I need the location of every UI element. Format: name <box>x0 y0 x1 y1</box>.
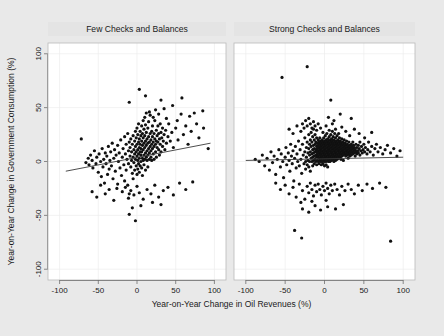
data-point <box>127 197 130 200</box>
data-point <box>161 127 164 130</box>
data-point <box>392 147 395 150</box>
data-point <box>121 156 124 159</box>
data-point <box>105 155 108 158</box>
data-point <box>323 189 326 192</box>
data-point <box>326 187 329 190</box>
data-point <box>165 142 168 145</box>
data-point <box>280 152 283 155</box>
data-point <box>300 172 303 175</box>
data-point <box>172 193 175 196</box>
data-point <box>313 204 316 207</box>
data-point <box>381 152 384 155</box>
data-point <box>114 170 117 173</box>
data-point <box>142 119 145 122</box>
data-point <box>140 166 143 169</box>
data-point <box>347 183 350 186</box>
data-point <box>158 153 161 156</box>
data-point <box>126 132 129 135</box>
data-point <box>97 152 100 155</box>
data-point <box>389 240 392 243</box>
data-point <box>280 76 283 79</box>
data-point <box>161 145 164 148</box>
data-point <box>159 203 162 206</box>
data-point <box>131 206 134 209</box>
data-point <box>284 184 287 187</box>
data-point <box>370 131 373 134</box>
data-point <box>108 159 111 162</box>
data-point <box>125 143 128 146</box>
data-point <box>297 139 300 142</box>
data-point <box>358 141 361 144</box>
data-point <box>122 163 125 166</box>
data-point <box>115 187 118 190</box>
data-point <box>87 163 90 166</box>
data-point <box>334 128 337 131</box>
data-point <box>289 143 292 146</box>
panel-1: Few Checks and Balances-100-50050100 <box>48 22 226 295</box>
data-point <box>121 190 124 193</box>
data-point <box>162 133 165 136</box>
data-point <box>298 183 301 186</box>
data-point <box>163 148 166 151</box>
data-point <box>274 181 277 184</box>
data-point <box>110 164 113 167</box>
data-point <box>269 150 272 153</box>
data-point <box>366 148 369 151</box>
data-point <box>121 147 124 150</box>
data-point <box>128 141 131 144</box>
data-point <box>310 127 313 130</box>
data-point <box>145 131 148 134</box>
data-point <box>146 165 149 168</box>
data-point <box>139 204 142 207</box>
data-point <box>165 117 168 120</box>
data-point <box>296 160 299 163</box>
data-point <box>305 156 308 159</box>
data-point <box>152 132 155 135</box>
data-point <box>129 189 132 192</box>
data-point <box>342 203 345 206</box>
data-point <box>333 132 336 135</box>
data-point <box>138 88 141 91</box>
x-tick-label: 0 <box>322 286 327 295</box>
data-point <box>339 113 342 116</box>
data-point <box>284 146 287 149</box>
data-point <box>113 148 116 151</box>
data-point <box>111 177 114 180</box>
data-point <box>307 191 310 194</box>
data-point <box>263 164 266 167</box>
data-point <box>178 181 181 184</box>
data-point <box>148 110 151 113</box>
data-point <box>137 122 140 125</box>
data-point <box>184 124 187 127</box>
x-tick-label: -50 <box>279 286 291 295</box>
data-point <box>293 229 296 232</box>
data-point <box>140 124 143 127</box>
data-point <box>287 151 290 154</box>
data-point <box>282 176 285 179</box>
data-point <box>154 108 157 111</box>
data-point <box>144 94 147 97</box>
data-point <box>277 148 280 151</box>
data-point <box>145 188 148 191</box>
data-point <box>132 161 135 164</box>
data-point <box>153 184 156 187</box>
data-point <box>157 113 160 116</box>
data-point <box>159 131 162 134</box>
data-point <box>335 188 338 191</box>
data-point <box>132 193 135 196</box>
data-point <box>384 186 387 189</box>
data-point <box>87 157 90 160</box>
data-point <box>358 153 361 156</box>
data-point <box>329 184 332 187</box>
data-point <box>307 117 310 120</box>
data-point <box>141 174 144 177</box>
data-point <box>301 143 304 146</box>
data-point <box>303 198 306 201</box>
data-point <box>129 137 132 140</box>
x-tick-label: 50 <box>171 286 180 295</box>
data-point <box>135 185 138 188</box>
data-point <box>398 149 401 152</box>
data-point <box>304 167 307 170</box>
x-tick-label: -50 <box>93 286 105 295</box>
data-point <box>118 166 121 169</box>
